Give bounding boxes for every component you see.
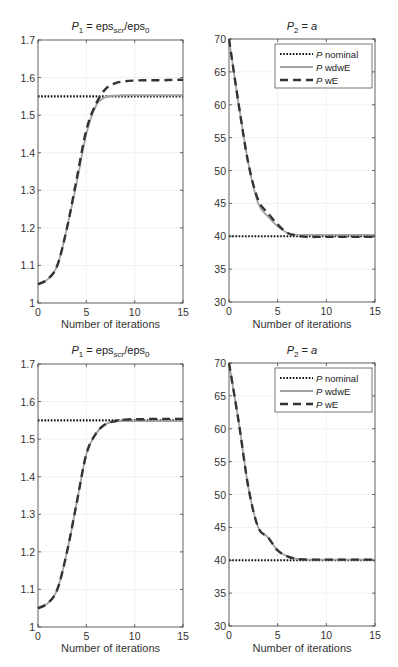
x-axis-label: Number of iterations	[252, 318, 352, 330]
x-tick-label: 10	[129, 630, 141, 642]
x-tick-label: 0	[226, 629, 232, 641]
y-tick-label: 1.5	[20, 433, 35, 445]
x-tick-label: 15	[177, 306, 189, 318]
grid	[38, 40, 183, 303]
x-tick-label: 10	[129, 306, 141, 318]
y-tick-label: 1.6	[20, 396, 35, 408]
y-tick-label: 1.3	[20, 508, 35, 520]
x-tick-label: 5	[275, 305, 281, 317]
y-tick-label: 1.7	[20, 34, 35, 46]
y-tick-label: 1.1	[20, 583, 35, 595]
y-tick-label: 1.7	[20, 358, 35, 370]
x-axis-label: Number of iterations	[252, 642, 352, 654]
x-axis-label: Number of iterations	[61, 642, 161, 654]
y-tick-label: 1	[29, 621, 35, 633]
x-axis-label: Number of iterations	[61, 318, 161, 330]
chart-panel-bottom-right: 051015303540455055606570Number of iterat…	[214, 344, 381, 654]
legend-entry-label: P nominal	[316, 49, 358, 60]
legend-entry-label: P wdwE	[316, 62, 350, 73]
y-tick-label: 1.6	[20, 72, 35, 84]
y-tick-label: 70	[214, 33, 226, 45]
chart-title: P1 = epsscr/eps0	[72, 20, 151, 35]
x-tick-label: 0	[35, 306, 41, 318]
y-tick-label: 1.4	[20, 471, 35, 483]
axes-box	[38, 40, 183, 303]
series-p-we	[38, 80, 183, 284]
y-tick-label: 65	[214, 390, 226, 402]
y-tick-label: 1.5	[20, 109, 35, 121]
x-tick-label: 0	[226, 305, 232, 317]
x-tick-label: 15	[369, 629, 381, 641]
y-tick-label: 40	[214, 554, 226, 566]
y-tick-label: 30	[214, 620, 226, 632]
legend-entry-label: P wE	[316, 399, 338, 410]
y-tick-label: 35	[214, 263, 226, 275]
axes-box	[38, 364, 183, 627]
y-tick-label: 30	[214, 296, 226, 308]
figure: 05101511.11.21.31.41.51.61.7Number of it…	[0, 0, 398, 667]
chart-panel-bottom-left: 05101511.11.21.31.41.51.61.7Number of it…	[20, 344, 189, 654]
chart-title: P2 = a	[287, 20, 317, 35]
y-tick-label: 1.3	[20, 184, 35, 196]
y-tick-label: 1.2	[20, 546, 35, 558]
y-tick-label: 1	[29, 297, 35, 309]
y-tick-label: 55	[214, 456, 226, 468]
y-tick-label: 55	[214, 132, 226, 144]
x-tick-label: 5	[83, 306, 89, 318]
y-tick-label: 1.2	[20, 222, 35, 234]
legend: P nominalP wdwEP wE	[275, 44, 372, 88]
x-tick-label: 10	[320, 629, 332, 641]
x-tick-label: 0	[35, 630, 41, 642]
y-tick-label: 50	[214, 489, 226, 501]
y-tick-label: 45	[214, 197, 226, 209]
y-tick-label: 45	[214, 521, 226, 533]
x-tick-label: 15	[369, 305, 381, 317]
legend: P nominalP wdwEP wE	[275, 368, 372, 412]
y-tick-label: 50	[214, 165, 226, 177]
y-tick-label: 1.1	[20, 259, 35, 271]
x-tick-label: 5	[83, 630, 89, 642]
chart-title: P2 = a	[287, 344, 317, 359]
chart-panel-top-left: 05101511.11.21.31.41.51.61.7Number of it…	[20, 20, 189, 330]
legend-entry-label: P nominal	[316, 373, 358, 384]
y-tick-label: 60	[214, 423, 226, 435]
x-tick-label: 5	[275, 629, 281, 641]
chart-title: P1 = epsscr/eps0	[72, 344, 151, 359]
y-tick-label: 65	[214, 66, 226, 78]
legend-entry-label: P wE	[316, 75, 338, 86]
y-tick-label: 60	[214, 99, 226, 111]
y-tick-label: 70	[214, 357, 226, 369]
legend-entry-label: P wdwE	[316, 386, 350, 397]
grid	[38, 364, 183, 627]
y-tick-label: 40	[214, 230, 226, 242]
y-tick-label: 1.4	[20, 147, 35, 159]
x-tick-label: 10	[320, 305, 332, 317]
chart-panel-top-right: 051015303540455055606570Number of iterat…	[214, 20, 381, 330]
series-p-wdwe	[38, 95, 183, 284]
y-tick-label: 35	[214, 587, 226, 599]
x-tick-label: 15	[177, 630, 189, 642]
